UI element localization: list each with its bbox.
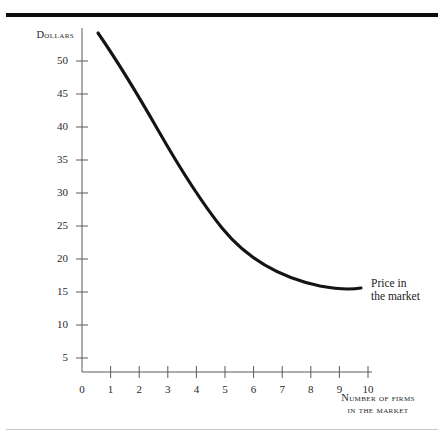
y-tick-label: 15 <box>34 285 68 297</box>
y-tick-label: 45 <box>34 87 68 99</box>
x-tick-label: 7 <box>271 383 293 395</box>
x-tick-label: 5 <box>214 383 236 395</box>
y-tick-label: 20 <box>34 252 68 264</box>
x-tick-label: 3 <box>157 383 179 395</box>
x-axis-title: Number of firms in the market <box>318 392 438 416</box>
x-tick-label: 2 <box>128 383 150 395</box>
y-tick-label: 30 <box>34 186 68 198</box>
y-axis-title: Dollars <box>22 29 74 41</box>
y-tick-label: 40 <box>34 120 68 132</box>
curve-annotation-line2: the market <box>371 290 420 303</box>
x-tick-label: 0 <box>71 383 93 395</box>
y-tick-label: 35 <box>34 153 68 165</box>
x-tick-label: 6 <box>243 383 265 395</box>
price-curve <box>98 33 361 289</box>
price-vs-firms-chart: Dollars 50 45 40 35 30 25 20 15 10 5 0 1… <box>0 0 445 437</box>
x-axis-title-line1: Number of firms <box>318 392 438 404</box>
bottom-divider-rule <box>6 429 438 430</box>
y-tick-label: 25 <box>34 219 68 231</box>
curve-annotation-line1: Price in <box>371 277 420 290</box>
x-tick-label: 4 <box>185 383 207 395</box>
x-tick-label: 1 <box>100 383 122 395</box>
y-tick-label: 10 <box>34 318 68 330</box>
x-axis-title-line2: in the market <box>318 404 438 416</box>
y-tick-label: 5 <box>34 351 68 363</box>
curve-annotation-label: Price in the market <box>371 277 420 303</box>
y-tick-label: 50 <box>34 54 68 66</box>
